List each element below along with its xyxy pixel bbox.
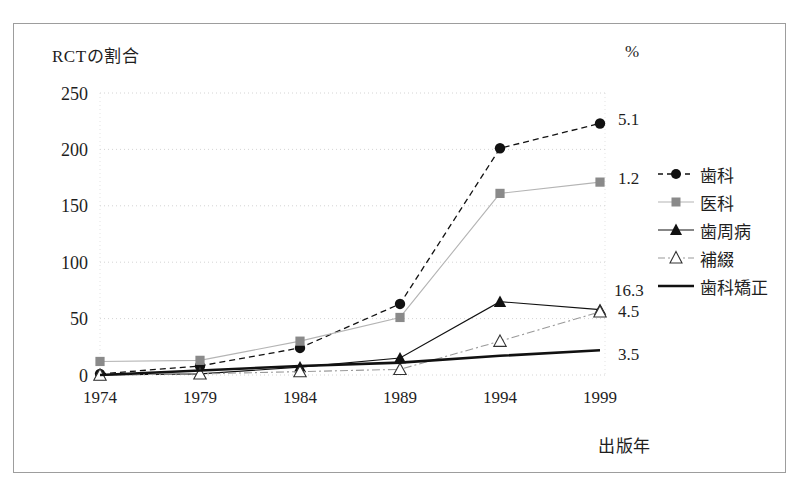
data-point — [395, 299, 405, 309]
data-point — [495, 189, 504, 198]
series-line — [100, 123, 600, 373]
data-point — [595, 118, 605, 128]
data-point — [394, 363, 406, 374]
series-2 — [94, 295, 606, 380]
series-0 — [95, 118, 605, 379]
data-point — [95, 357, 104, 366]
data-point — [295, 337, 304, 346]
series-3 — [94, 306, 606, 381]
data-point — [495, 143, 505, 153]
series-line — [100, 182, 600, 361]
data-point — [595, 178, 604, 187]
plot-area — [0, 0, 801, 496]
data-point — [594, 306, 606, 317]
data-point — [494, 335, 506, 346]
figure-container: RCTの割合 % 出版年 250 200 150 100 50 0 1974 1… — [0, 0, 801, 496]
data-point — [195, 356, 204, 365]
data-point — [395, 313, 404, 322]
data-point — [494, 295, 506, 306]
series-layer — [94, 118, 606, 380]
